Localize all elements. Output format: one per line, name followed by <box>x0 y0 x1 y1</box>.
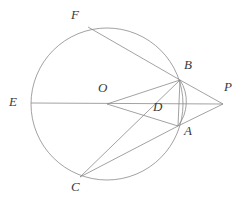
point-label-f: F <box>71 8 79 21</box>
segment-e-p <box>31 103 223 104</box>
segment-c-b <box>80 80 180 177</box>
segment-f-b <box>88 27 180 80</box>
point-label-a: A <box>184 124 192 137</box>
point-label-c: C <box>71 180 80 193</box>
point-label-e: E <box>9 95 17 108</box>
point-label-p: P <box>224 80 232 93</box>
segment-o-a <box>107 104 178 126</box>
segment-o-b <box>107 80 180 104</box>
point-label-d: D <box>153 100 162 113</box>
segment-b-a <box>178 80 180 126</box>
point-label-o: O <box>98 81 107 94</box>
geometry-figure: EFOBDAPC <box>0 0 244 209</box>
segment-c-a <box>80 126 178 177</box>
segments-group <box>31 27 223 177</box>
diagram-canvas <box>0 0 244 209</box>
point-label-b: B <box>184 58 192 71</box>
